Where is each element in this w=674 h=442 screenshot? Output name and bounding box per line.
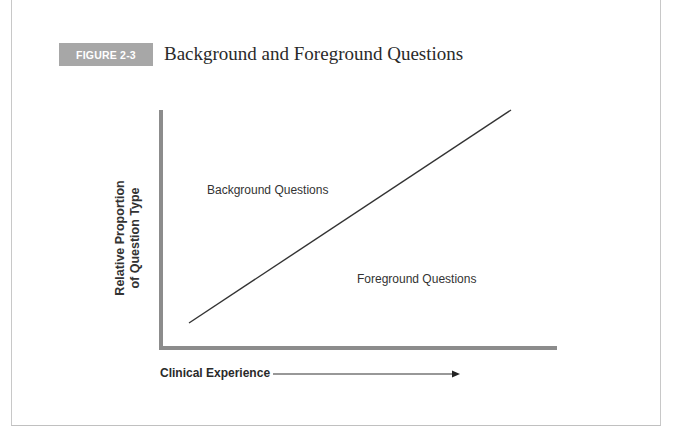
x-axis-label: Clinical Experience <box>160 366 270 380</box>
divider-line <box>189 110 511 323</box>
y-axis-label: Relative Proportion of Question Type <box>113 180 143 295</box>
y-axis-label-line2: of Question Type <box>128 180 143 295</box>
plot-area <box>0 0 674 442</box>
y-axis-label-line1: Relative Proportion <box>113 180 128 295</box>
x-arrow-head-icon <box>452 371 460 378</box>
foreground-questions-label: Foreground Questions <box>357 272 476 286</box>
background-questions-label: Background Questions <box>207 183 328 197</box>
